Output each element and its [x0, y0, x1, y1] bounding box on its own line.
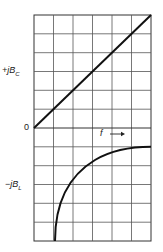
- negative-susceptance-label: −jBL: [5, 179, 22, 191]
- label-text: +jB: [2, 65, 15, 75]
- positive-susceptance-label: +jBC: [2, 65, 20, 77]
- frequency-label: f: [100, 128, 103, 138]
- label-text: −jB: [5, 179, 18, 189]
- grid: [34, 15, 151, 241]
- label-subscript: C: [15, 71, 19, 77]
- label-subscript: L: [18, 185, 21, 191]
- inductive-susceptance-curve: [55, 147, 151, 241]
- zero-label: 0: [24, 122, 29, 132]
